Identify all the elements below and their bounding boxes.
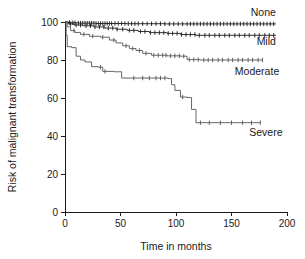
y-tick-label-20: 20 [47, 169, 59, 180]
y-tick-label-0: 0 [52, 207, 58, 218]
series-label-mild: Mild [257, 35, 276, 47]
x-tick-label-0: 0 [62, 218, 68, 229]
y-tick-label-60: 60 [47, 93, 59, 104]
x-axis-title: Time in months [140, 240, 211, 252]
series-label-moderate: Moderate [235, 65, 280, 77]
chart-page: 050100150200020406080100 NoneMildModerat… [0, 0, 305, 259]
series-label-none: None [251, 6, 276, 18]
y-tick-label-80: 80 [47, 55, 59, 66]
x-tick-label-150: 150 [223, 218, 240, 229]
x-tick-label-50: 50 [115, 218, 127, 229]
x-tick-label-100: 100 [168, 218, 185, 229]
y-tick-label-100: 100 [41, 17, 58, 28]
series-label-severe: Severe [249, 126, 282, 138]
survival-chart: 050100150200020406080100 NoneMildModerat… [0, 0, 305, 259]
y-tick-label-40: 40 [47, 131, 59, 142]
x-tick-label-200: 200 [279, 218, 296, 229]
y-axis-title: Risk of malignant transformation [6, 42, 18, 193]
